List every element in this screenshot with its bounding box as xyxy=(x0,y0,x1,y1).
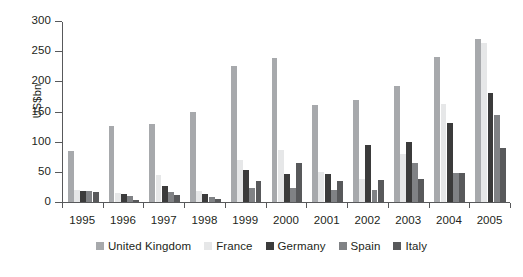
bar xyxy=(237,160,243,202)
legend-label: Spain xyxy=(351,240,381,252)
bar xyxy=(278,150,284,202)
y-tick-label: 300 xyxy=(32,14,52,26)
bar xyxy=(434,57,440,202)
y-tick: 50 xyxy=(55,172,62,173)
x-tick-label: 2005 xyxy=(469,214,510,226)
y-tick-label: 0 xyxy=(45,195,52,207)
bar xyxy=(481,43,487,202)
bar xyxy=(378,180,384,202)
bar xyxy=(109,126,115,202)
bar xyxy=(115,193,121,202)
bar xyxy=(365,145,371,202)
y-tick: 0 xyxy=(55,202,62,203)
bar xyxy=(353,100,359,202)
bar xyxy=(74,190,80,202)
bar xyxy=(475,39,481,202)
bar xyxy=(256,181,262,202)
bar xyxy=(418,179,424,202)
legend-item: United Kingdom xyxy=(96,240,191,252)
x-tick xyxy=(306,203,307,208)
bar xyxy=(406,142,412,202)
bar xyxy=(68,151,74,202)
bar xyxy=(394,86,400,202)
y-tick: 200 xyxy=(55,81,62,82)
legend-swatch xyxy=(204,242,212,250)
bar xyxy=(372,190,378,202)
bar xyxy=(441,104,447,202)
y-tick-label: 150 xyxy=(32,105,52,117)
bar xyxy=(249,188,255,202)
x-tick-label: 2003 xyxy=(388,214,429,226)
bar xyxy=(121,194,127,202)
chart-legend: United KingdomFranceGermanySpainItaly xyxy=(0,240,523,252)
bar xyxy=(296,163,302,202)
bar xyxy=(400,154,406,202)
x-tick-label: 2002 xyxy=(347,214,388,226)
bar xyxy=(86,191,92,202)
bar xyxy=(133,200,139,202)
x-tick-label: 1996 xyxy=(103,214,144,226)
y-tick: 300 xyxy=(55,21,62,22)
legend-label: United Kingdom xyxy=(108,240,191,252)
legend-swatch xyxy=(339,242,347,250)
legend-label: France xyxy=(216,240,252,252)
bar xyxy=(209,197,215,202)
x-tick xyxy=(429,203,430,208)
x-tick xyxy=(510,203,511,208)
bar xyxy=(359,179,365,202)
x-tick xyxy=(103,203,104,208)
legend-label: Germany xyxy=(278,240,326,252)
x-tick xyxy=(225,203,226,208)
x-tick-label: 2000 xyxy=(266,214,307,226)
legend-item: Italy xyxy=(393,240,427,252)
x-tick xyxy=(469,203,470,208)
bar-chart: US$bn 050100150200250300 199519961997199… xyxy=(0,0,523,277)
x-tick-label: 1999 xyxy=(225,214,266,226)
bar xyxy=(174,195,180,202)
bar xyxy=(337,181,343,202)
x-tick-label: 2001 xyxy=(306,214,347,226)
legend-swatch xyxy=(393,242,401,250)
x-tick xyxy=(266,203,267,208)
legend-label: Italy xyxy=(405,240,427,252)
y-tick-label: 100 xyxy=(32,135,52,147)
bar xyxy=(190,112,196,203)
x-tick-label: 1997 xyxy=(143,214,184,226)
bar xyxy=(500,148,506,202)
x-tick xyxy=(388,203,389,208)
bar xyxy=(459,173,465,202)
bar xyxy=(494,115,500,202)
bar xyxy=(331,190,337,202)
bar xyxy=(447,123,453,202)
bar xyxy=(318,172,324,202)
bar xyxy=(272,58,278,202)
legend-item: Germany xyxy=(266,240,326,252)
x-tick-label: 1995 xyxy=(62,214,103,226)
bar xyxy=(412,163,418,202)
bar xyxy=(284,174,290,202)
bar xyxy=(312,105,318,202)
y-tick-label: 200 xyxy=(32,74,52,86)
x-tick-label: 2004 xyxy=(429,214,470,226)
bar xyxy=(168,192,174,202)
y-axis-line xyxy=(62,22,63,203)
plot-area: 050100150200250300 199519961997199819992… xyxy=(62,22,510,203)
bar xyxy=(243,170,249,202)
bar xyxy=(453,173,459,202)
y-tick-label: 250 xyxy=(32,44,52,56)
y-tick: 100 xyxy=(55,142,62,143)
bar xyxy=(196,191,202,202)
x-tick xyxy=(184,203,185,208)
y-tick: 250 xyxy=(55,51,62,52)
y-tick-label: 50 xyxy=(38,165,51,177)
bar xyxy=(149,124,155,202)
bar xyxy=(162,186,168,202)
x-tick xyxy=(62,203,63,208)
bar xyxy=(215,199,221,202)
bar xyxy=(488,93,494,202)
legend-swatch xyxy=(266,242,274,250)
bar xyxy=(127,196,133,202)
bar xyxy=(93,192,99,202)
y-tick: 150 xyxy=(55,112,62,113)
bar xyxy=(202,194,208,202)
